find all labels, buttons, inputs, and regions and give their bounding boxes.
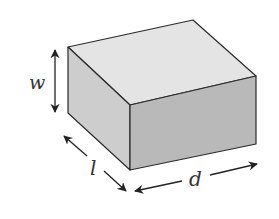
depth-label: d [189, 167, 202, 191]
box-diagram: w l d [0, 0, 279, 219]
length-dimension-arrow-upper [64, 136, 87, 156]
depth-dimension-arrow-left [135, 181, 182, 191]
length-label: l [90, 156, 96, 180]
depth-dimension-arrow-right [210, 164, 257, 175]
width-label: w [29, 71, 45, 93]
length-dimension-arrow-lower [104, 171, 126, 191]
